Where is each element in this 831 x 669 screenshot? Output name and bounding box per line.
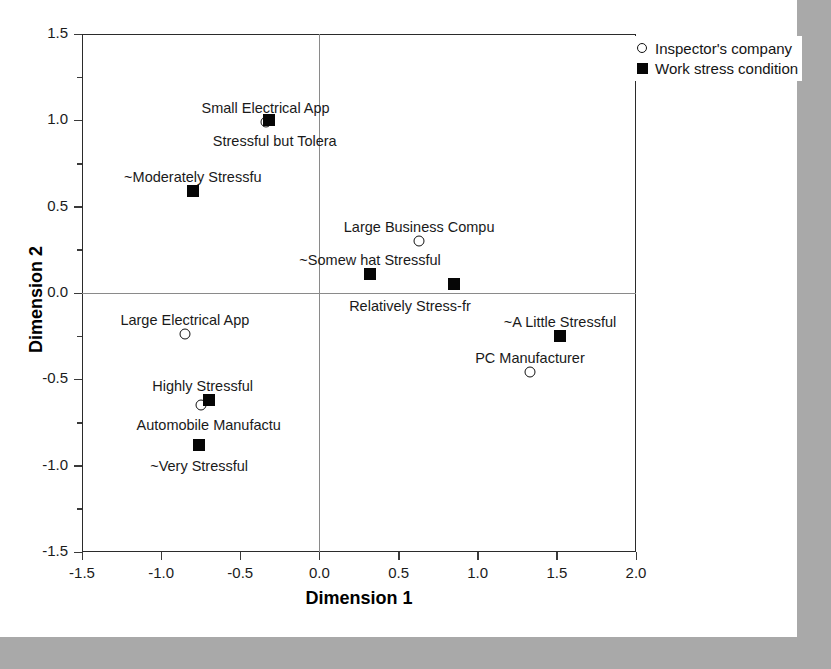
data-point-label: Highly Stressful	[152, 378, 253, 394]
y-axis-tick	[74, 206, 82, 208]
y-axis-tick-label: -0.5	[42, 369, 68, 386]
data-point-label: ~A Little Stressful	[504, 314, 616, 330]
data-point-circle-marker	[414, 236, 425, 247]
data-point-label: PC Manufacturer	[475, 350, 585, 366]
y-axis-tick-label: -1.0	[42, 456, 68, 473]
x-axis-tick-label: -1.5	[69, 564, 95, 581]
x-axis-tick	[240, 552, 242, 560]
data-point-square-marker	[203, 394, 215, 406]
x-axis-title: Dimension 1	[305, 588, 412, 609]
y-axis-minor-tick	[77, 77, 82, 79]
y-axis-tick	[74, 120, 82, 122]
legend-label: Work stress condition	[655, 60, 798, 77]
marker-glyph	[637, 63, 648, 74]
data-point-square-marker	[263, 114, 275, 126]
x-axis-tick-label: 0.5	[388, 564, 409, 581]
data-point-label: Relatively Stress-fr	[349, 298, 471, 314]
x-axis-tick-label: 1.0	[467, 564, 488, 581]
x-axis-tick	[161, 552, 163, 560]
data-point-square-marker	[554, 330, 566, 342]
data-point-label: ~Moderately Stressfu	[124, 169, 261, 185]
y-axis-tick	[74, 465, 82, 467]
data-point-label: Stressful but Tolera	[213, 133, 337, 149]
legend-item: Inspector's company	[634, 38, 798, 58]
y-axis-tick	[74, 293, 82, 295]
x-axis-tick	[556, 552, 558, 560]
data-point-circle-marker	[179, 329, 190, 340]
x-axis-tick-label: 2.0	[626, 564, 647, 581]
y-axis-tick-label: 0.5	[47, 197, 68, 214]
y-axis-minor-tick	[77, 422, 82, 424]
x-axis-tick-label: 0.0	[309, 564, 330, 581]
chart-legend: Inspector's companyWork stress condition	[630, 36, 802, 81]
legend-circle-icon	[634, 43, 650, 53]
y-axis-tick	[74, 552, 82, 554]
data-point-label: Large Electrical App	[120, 312, 249, 328]
y-axis-title: Dimension 2	[26, 246, 47, 353]
marker-glyph	[637, 43, 647, 53]
data-point-label: ~Somew hat Stressful	[299, 252, 440, 268]
page-margin-bottom	[0, 637, 831, 669]
data-point-square-marker	[187, 185, 199, 197]
x-axis-tick-label: -0.5	[227, 564, 253, 581]
y-axis-tick-label: -1.5	[42, 542, 68, 559]
x-axis-tick	[398, 552, 400, 560]
data-point-circle-marker	[524, 367, 535, 378]
data-point-square-marker	[448, 278, 460, 290]
horizontal-zero-line	[82, 293, 636, 294]
y-axis-tick	[74, 379, 82, 381]
legend-square-icon	[634, 63, 650, 74]
x-axis-tick	[477, 552, 479, 560]
data-point-label: Automobile Manufactu	[137, 417, 281, 433]
legend-label: Inspector's company	[655, 40, 792, 57]
scatter-plot-figure: -1.5-1.0-0.50.00.51.01.52.01.51.00.50.0-…	[0, 0, 797, 637]
y-axis-tick-label: 1.0	[47, 110, 68, 127]
y-axis-tick	[74, 34, 82, 36]
y-axis-tick-label: 1.5	[47, 24, 68, 41]
data-point-square-marker	[193, 439, 205, 451]
x-axis-tick	[82, 552, 84, 560]
y-axis-minor-tick	[77, 249, 82, 251]
x-axis-tick-label: -1.0	[148, 564, 174, 581]
y-axis-minor-tick	[77, 163, 82, 165]
y-axis-minor-tick	[77, 508, 82, 510]
x-axis-tick	[636, 552, 638, 560]
y-axis-minor-tick	[77, 336, 82, 338]
page-margin-right	[797, 0, 831, 669]
data-point-label: Large Business Compu	[344, 219, 495, 235]
x-axis-tick-label: 1.5	[546, 564, 567, 581]
y-axis-tick-label: 0.0	[47, 283, 68, 300]
x-axis-tick	[319, 552, 321, 560]
legend-item: Work stress condition	[634, 58, 798, 78]
data-point-square-marker	[364, 268, 376, 280]
data-point-label: ~Very Stressful	[150, 458, 248, 474]
